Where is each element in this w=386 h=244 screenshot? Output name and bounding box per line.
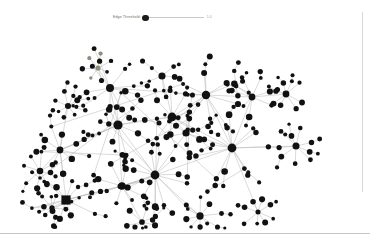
graph-node[interactable] <box>146 138 151 143</box>
graph-node[interactable] <box>186 93 190 97</box>
graph-node[interactable] <box>215 114 218 117</box>
graph-node[interactable] <box>169 210 175 216</box>
graph-node[interactable] <box>131 167 137 173</box>
graph-node[interactable] <box>48 113 52 117</box>
graph-node[interactable] <box>162 206 165 209</box>
graph-node[interactable] <box>38 176 42 180</box>
graph-node[interactable] <box>21 190 24 193</box>
graph-node[interactable] <box>279 129 284 134</box>
graph-node[interactable] <box>185 181 189 185</box>
graph-node[interactable] <box>157 120 162 125</box>
graph-node[interactable] <box>242 166 247 171</box>
graph-node[interactable] <box>209 130 213 134</box>
graph-node[interactable] <box>89 190 94 195</box>
graph-node[interactable] <box>42 145 47 150</box>
graph-node[interactable] <box>81 104 85 108</box>
graph-node[interactable] <box>257 180 261 184</box>
graph-node[interactable] <box>225 82 229 86</box>
graph-node[interactable] <box>259 76 263 80</box>
graph-node[interactable] <box>271 217 275 221</box>
graph-node[interactable] <box>91 173 96 178</box>
graph-node[interactable] <box>53 225 57 229</box>
graph-node[interactable] <box>71 104 75 108</box>
graph-node[interactable] <box>99 78 104 83</box>
graph-node[interactable] <box>98 119 103 124</box>
graph-node[interactable] <box>37 210 41 214</box>
graph-node[interactable] <box>190 127 195 132</box>
graph-node[interactable] <box>267 88 273 94</box>
graph-node[interactable] <box>231 105 235 109</box>
graph-node[interactable] <box>113 120 122 129</box>
graph-node[interactable] <box>71 94 75 98</box>
graph-node[interactable] <box>164 95 169 100</box>
graph-node[interactable] <box>262 220 268 226</box>
graph-node[interactable] <box>234 84 239 89</box>
slider-track[interactable] <box>144 17 204 18</box>
graph-node[interactable] <box>298 126 303 131</box>
graph-node[interactable] <box>221 184 225 188</box>
graph-node[interactable] <box>57 110 61 114</box>
graph-node[interactable] <box>60 170 66 176</box>
graph-node[interactable] <box>209 147 213 151</box>
graph-node[interactable] <box>267 85 271 89</box>
graph-node[interactable] <box>214 176 219 181</box>
graph-node[interactable] <box>104 214 108 218</box>
graph-node[interactable] <box>242 221 247 226</box>
graph-node[interactable] <box>93 212 97 216</box>
graph-node[interactable] <box>87 154 91 158</box>
graph-node[interactable] <box>149 150 154 155</box>
graph-node[interactable] <box>297 81 301 85</box>
graph-node[interactable] <box>106 121 111 126</box>
graph-node[interactable] <box>209 121 213 125</box>
graph-node[interactable] <box>189 225 192 228</box>
graph-node[interactable] <box>153 214 158 219</box>
graph-node[interactable] <box>201 70 207 76</box>
graph-node[interactable] <box>30 206 34 210</box>
graph-node[interactable] <box>48 170 54 176</box>
graph-node[interactable] <box>69 156 75 162</box>
graph-node[interactable] <box>50 195 54 199</box>
graph-node[interactable] <box>73 84 77 88</box>
graph-node[interactable] <box>196 102 201 107</box>
graph-node[interactable] <box>205 189 210 194</box>
graph-node[interactable] <box>278 102 284 108</box>
graph-node[interactable] <box>316 152 320 156</box>
graph-node[interactable] <box>281 80 286 85</box>
graph-node[interactable] <box>65 103 71 109</box>
graph-node[interactable] <box>162 89 166 93</box>
graph-node[interactable] <box>145 196 149 200</box>
graph-node[interactable] <box>171 64 176 69</box>
graph-node[interactable] <box>177 76 183 82</box>
graph-node[interactable] <box>41 204 46 209</box>
graph-node[interactable] <box>147 179 153 185</box>
graph-node[interactable] <box>29 155 33 159</box>
graph-node[interactable] <box>163 134 169 140</box>
graph-node[interactable] <box>141 226 144 229</box>
graph-node[interactable] <box>140 59 145 64</box>
graph-node[interactable] <box>205 221 209 225</box>
graph-node[interactable] <box>53 174 57 178</box>
graph-node[interactable] <box>86 97 90 101</box>
graph-node[interactable] <box>125 184 131 190</box>
graph-node[interactable] <box>148 79 151 82</box>
graph-node[interactable] <box>145 207 149 211</box>
graph-node[interactable] <box>70 200 74 204</box>
graph-node[interactable] <box>207 54 213 60</box>
graph-node[interactable] <box>81 130 85 134</box>
graph-node[interactable] <box>158 152 162 156</box>
graph-node[interactable] <box>105 70 109 74</box>
graph-node[interactable] <box>123 155 128 160</box>
graph-node[interactable] <box>130 158 134 162</box>
graph-node[interactable] <box>177 62 181 66</box>
graph-node[interactable] <box>53 98 57 102</box>
graph-node[interactable] <box>145 200 150 205</box>
graph-node[interactable] <box>236 60 241 65</box>
graph-node[interactable] <box>193 153 198 158</box>
graph-node[interactable] <box>43 213 48 218</box>
graph-node[interactable] <box>87 56 91 60</box>
graph-node[interactable] <box>130 198 134 202</box>
graph-node[interactable] <box>154 136 159 141</box>
graph-node[interactable] <box>278 154 284 160</box>
graph-node[interactable] <box>88 195 92 199</box>
graph-node[interactable] <box>98 189 103 194</box>
